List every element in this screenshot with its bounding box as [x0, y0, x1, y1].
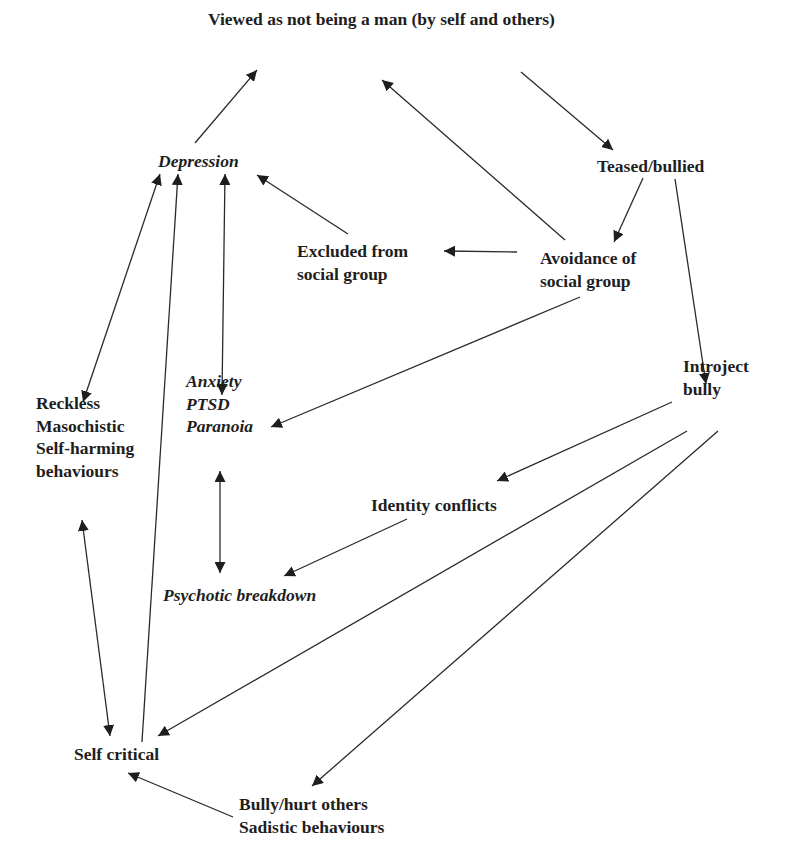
- node-label-line: Self critical: [74, 743, 159, 766]
- node-reckless: RecklessMasochisticSelf-harmingbehaviour…: [36, 392, 134, 482]
- node-introject: Introjectbully: [683, 355, 749, 400]
- arrow-introject-to-bully: [312, 431, 718, 786]
- node-label-line: Excluded from: [297, 240, 408, 263]
- arrow-depression-to-man: [195, 70, 257, 143]
- node-excluded: Excluded fromsocial group: [297, 240, 408, 285]
- node-label-line: Reckless: [36, 392, 134, 415]
- node-label-line: Self-harming: [36, 437, 134, 460]
- node-label-line: Identity conflicts: [371, 494, 497, 517]
- arrow-depression-to-anxiety: [222, 174, 225, 395]
- node-label-line: social group: [540, 270, 636, 293]
- arrow-reckless-to-selfcritical: [82, 520, 110, 736]
- node-label-line: Psychotic breakdown: [163, 584, 316, 607]
- node-label-line: Paranoia: [186, 415, 253, 438]
- arrow-teased-to-avoidance: [614, 178, 643, 242]
- node-anxiety: AnxietyPTSDParanoia: [186, 370, 253, 438]
- node-psychotic: Psychotic breakdown: [163, 584, 316, 607]
- node-avoidance: Avoidance ofsocial group: [540, 247, 636, 292]
- arrow-teased-to-introject: [675, 179, 706, 384]
- node-label-line: Sadistic behaviours: [239, 816, 384, 839]
- psychological-cycle-diagram: Viewed as not being a man (by self and o…: [0, 0, 795, 865]
- arrow-avoidance-to-anxiety: [271, 297, 580, 427]
- arrow-bully-to-selfcritical: [128, 773, 233, 817]
- node-label-line: Avoidance of: [540, 247, 636, 270]
- node-label-line: bully: [683, 378, 749, 401]
- node-selfcritical: Self critical: [74, 743, 159, 766]
- arrow-avoidance-to-excluded: [444, 251, 517, 252]
- node-identity: Identity conflicts: [371, 494, 497, 517]
- arrow-depression-to-reckless: [83, 174, 160, 402]
- arrow-introject-to-identity: [497, 402, 672, 481]
- node-label-line: Introject: [683, 355, 749, 378]
- arrow-selfcritical-to-depression: [142, 174, 178, 742]
- node-label-line: social group: [297, 263, 408, 286]
- arrows: [82, 70, 718, 817]
- arrow-avoidance-to-man: [382, 80, 565, 240]
- arrow-identity-to-psychotic: [284, 519, 407, 576]
- node-man: Viewed as not being a man (by self and o…: [208, 8, 555, 31]
- node-bully: Bully/hurt othersSadistic behaviours: [239, 793, 384, 838]
- arrow-excluded-to-depression: [257, 175, 348, 234]
- node-label-line: Anxiety: [186, 370, 253, 393]
- node-label-line: Bully/hurt others: [239, 793, 384, 816]
- node-depression: Depression: [158, 150, 239, 173]
- node-label-line: Depression: [158, 150, 239, 173]
- node-label-line: Masochistic: [36, 415, 134, 438]
- node-teased: Teased/bullied: [597, 155, 704, 178]
- node-label-line: Teased/bullied: [597, 155, 704, 178]
- node-label-line: behaviours: [36, 460, 134, 483]
- node-label-line: PTSD: [186, 393, 253, 416]
- arrow-man-to-teased: [521, 72, 613, 150]
- node-label-line: Viewed as not being a man (by self and o…: [208, 8, 555, 31]
